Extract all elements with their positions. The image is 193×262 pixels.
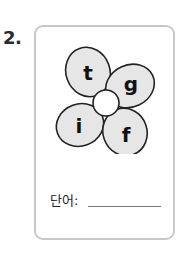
petal-letter: t bbox=[83, 61, 93, 85]
petal-letter: f bbox=[122, 123, 131, 147]
answer-blank-line[interactable] bbox=[88, 206, 161, 207]
answer-label: 단어: bbox=[50, 190, 78, 209]
petal-letter: g bbox=[124, 72, 138, 96]
petal-letter: i bbox=[76, 114, 83, 138]
flower-diagram: t g i f bbox=[50, 42, 162, 154]
exercise-number: 2. bbox=[3, 27, 21, 48]
flower-center bbox=[93, 90, 119, 116]
